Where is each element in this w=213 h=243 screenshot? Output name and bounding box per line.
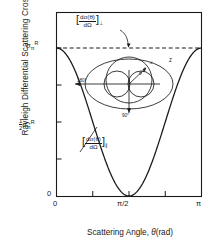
- cos2-polyline: [57, 48, 201, 167]
- curve-draft: [57, 48, 201, 161]
- y-axis-ticks: [57, 48, 62, 159]
- main-curve-draft: [57, 48, 201, 196]
- x-axis-label-text: Scattering Angle,: [87, 228, 151, 237]
- inset-label-perpendicular: ⊥: [149, 59, 153, 65]
- polar-inset: [75, 57, 173, 113]
- curve-sample: [57, 48, 184, 180]
- x-axis-ticks: [93, 191, 166, 196]
- subscript-perpendicular: ⊥: [99, 20, 103, 26]
- sigma-superscript-r: R: [34, 40, 38, 46]
- x-axis-units: (rad): [156, 228, 173, 237]
- annotation-perpendicular: [ dσ(θ) dΩ ]⊥: [76, 14, 103, 28]
- annotation-parallel: [ dσ(θ) dΩ ]∥: [82, 136, 108, 150]
- inset-label-total: Σ: [169, 57, 172, 63]
- rayleigh-scattering-figure: Rayleigh Differential Scattering Cross-S…: [0, 0, 213, 243]
- x-axis-label: Scattering Angle, θ(rad): [50, 228, 210, 237]
- inset-label-90-degrees: 90°: [122, 113, 129, 118]
- fraction-denominator-perp: dΩ: [79, 22, 96, 29]
- parallel-curve-hidden: [57, 48, 194, 167]
- x-tick-label-zero: 0: [53, 199, 57, 208]
- curve-guide-hidden: [57, 48, 206, 159]
- x-tick-label-half-pi: π/2: [117, 199, 128, 208]
- y-tick-label-sigma: σπR: [26, 40, 38, 51]
- y-tick-label-half-sigma: 1 2 σπR: [19, 118, 35, 132]
- sigma-superscript-r-half: R: [31, 119, 35, 125]
- x-tick-label-pi: π: [196, 199, 201, 208]
- y-axis-label: Rayleigh Differential Scattering Cross-S…: [21, 0, 30, 136]
- inset-label-parallel: ∥: [143, 66, 146, 72]
- y-tick-label-zero: 0: [47, 189, 51, 198]
- cross-section-fraction-par: dσ(θ) dΩ: [85, 136, 102, 150]
- fraction-denominator-par: dΩ: [85, 144, 102, 151]
- cross-section-fraction-perp: dσ(θ) dΩ: [79, 14, 96, 28]
- inset-label-180-degrees: 180°: [77, 78, 87, 83]
- inset-label-theta: θ: [139, 70, 142, 76]
- perpendicular-leader-arrow: [127, 44, 131, 48]
- subscript-parallel: ∥: [105, 142, 108, 148]
